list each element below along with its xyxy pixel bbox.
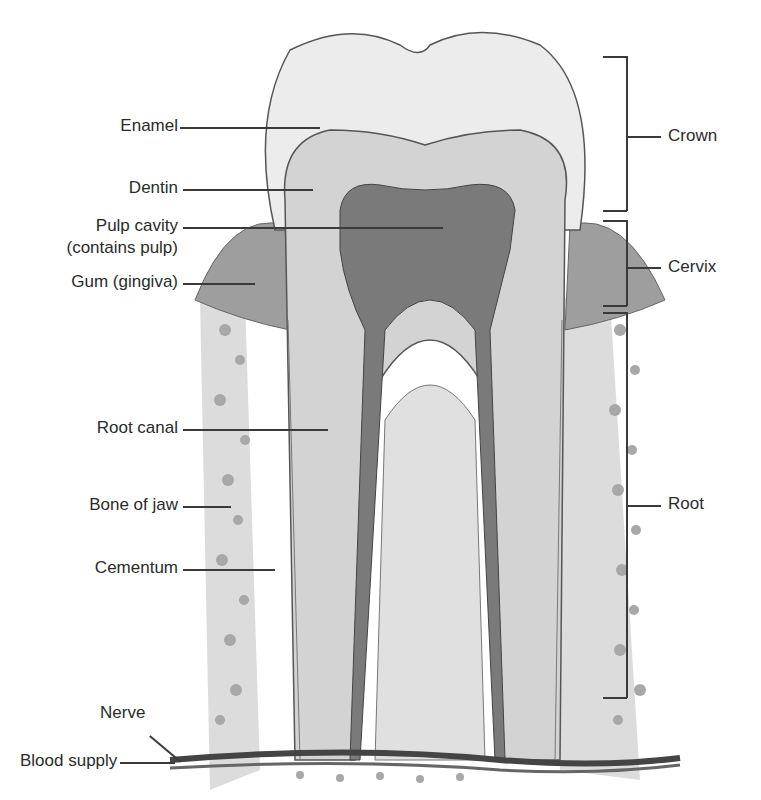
bracket-root-bottom xyxy=(603,697,627,699)
leader-cementum xyxy=(183,569,275,571)
leader-pulp-cavity xyxy=(183,227,443,229)
leader-cervix xyxy=(627,267,661,269)
label-root-canal: Root canal xyxy=(40,418,178,438)
label-pulp-cavity-sub: (contains pulp) xyxy=(20,238,178,258)
bracket-cervix xyxy=(626,220,628,306)
gum-right xyxy=(565,223,665,330)
label-dentin: Dentin xyxy=(60,178,178,198)
leader-root-canal xyxy=(183,429,328,431)
bracket-cervix-top xyxy=(603,220,627,222)
leader-bone xyxy=(183,506,231,508)
label-cervix: Cervix xyxy=(668,257,716,277)
label-crown: Crown xyxy=(668,126,717,146)
bracket-root-top xyxy=(603,312,627,314)
leader-gum xyxy=(183,283,255,285)
bracket-crown-top xyxy=(603,56,627,58)
leader-root xyxy=(627,505,661,507)
leader-dentin xyxy=(183,189,313,191)
label-root: Root xyxy=(668,494,704,514)
bracket-crown xyxy=(626,56,628,211)
leader-enamel xyxy=(180,127,320,129)
bracket-cervix-bottom xyxy=(603,305,627,307)
label-bone-of-jaw: Bone of jaw xyxy=(40,495,178,515)
label-nerve: Nerve xyxy=(100,703,145,723)
label-gum: Gum (gingiva) xyxy=(10,272,178,292)
bracket-crown-bottom xyxy=(603,210,627,212)
label-cementum: Cementum xyxy=(40,558,178,578)
label-pulp-cavity: Pulp cavity xyxy=(20,216,178,236)
leader-crown xyxy=(627,136,661,138)
leader-blood-supply xyxy=(120,762,175,764)
label-blood-supply: Blood supply xyxy=(20,751,117,771)
label-enamel: Enamel xyxy=(60,116,178,136)
